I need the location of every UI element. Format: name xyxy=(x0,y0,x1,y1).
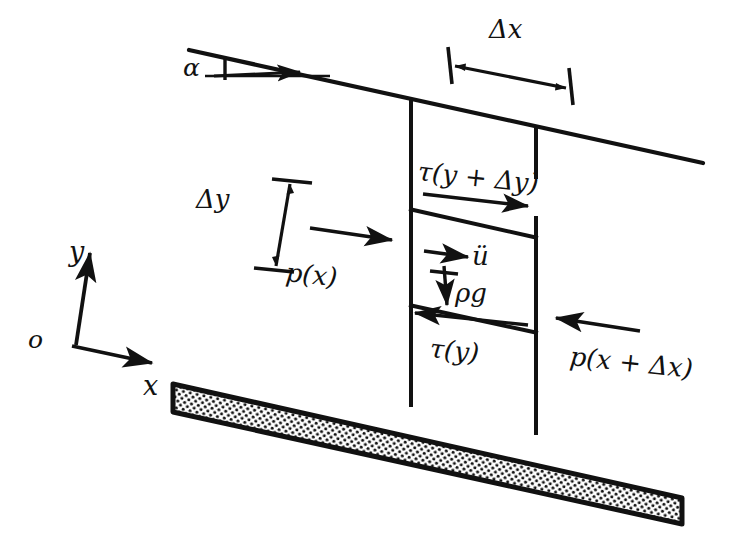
pressure-right-arrow xyxy=(556,318,640,331)
delta-y-top-tick xyxy=(272,179,312,183)
delta-x-left-tick xyxy=(448,47,452,84)
delta-y-span-line xyxy=(276,184,290,266)
slope-angle-label: α xyxy=(183,55,200,80)
delta-x-right-tick xyxy=(569,68,573,105)
element-top-face xyxy=(409,209,538,238)
acceleration-label: ü xyxy=(472,243,489,269)
delta-y-label: Δy xyxy=(196,186,229,212)
shear-bottom-label: τ(y) xyxy=(429,335,481,366)
pressure-left-arrow xyxy=(310,228,392,240)
gravity-label: ρg xyxy=(455,280,487,306)
free-body-diagram xyxy=(0,0,745,559)
pressure-left-label: p(x) xyxy=(285,259,339,290)
y-axis-label: y xyxy=(69,238,84,265)
x-axis-label: x xyxy=(143,372,158,399)
bed-hatched-band xyxy=(173,384,682,524)
acceleration-arrow xyxy=(424,251,468,257)
coordinate-axes xyxy=(72,253,152,363)
delta-x-dimension xyxy=(448,47,573,105)
x-axis-arrow xyxy=(72,346,152,363)
shear-bottom-arrow xyxy=(415,313,528,325)
delta-x-span-line xyxy=(455,66,566,88)
channel-bed xyxy=(173,384,682,524)
free-surface-line xyxy=(189,50,703,163)
delta-x-label: Δx xyxy=(489,16,522,42)
origin-label: o xyxy=(28,327,43,352)
